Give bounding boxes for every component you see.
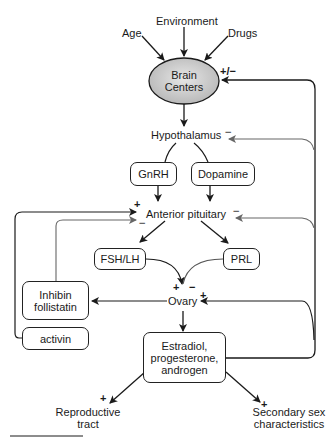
secondary-line2: characteristics (245, 418, 333, 430)
arrow-steroids-reproductive (110, 372, 145, 403)
sign-ovary-steroid: + (200, 290, 206, 301)
secondary-line1: Secondary sex (245, 406, 333, 418)
anterior-pituitary-label: Anterior pituitary (146, 208, 226, 220)
label-age: Age (122, 27, 142, 39)
sign-ovary-fsh: + (173, 282, 179, 293)
line-hypothalamus-dopamine (194, 143, 208, 162)
activin-box: activin (22, 327, 89, 350)
fsh-lh-box: FSH/LH (94, 248, 146, 270)
feedback-steroids-hypothalamus (229, 139, 314, 150)
inhibin-line1: Inhibin (39, 289, 71, 301)
hypothalamus-label: Hypothalamus (151, 129, 221, 141)
label-environment: Environment (156, 15, 218, 27)
prl-box: PRL (223, 248, 260, 270)
dopamine-box: Dopamine (191, 162, 255, 186)
gnrh-box: GnRH (130, 162, 177, 186)
line-hypothalamus-gnrh (165, 143, 176, 162)
feedback-steroids-pituitary (236, 218, 314, 228)
arrow-age (142, 36, 164, 60)
secondary-sex-label: Secondary sex characteristics (245, 406, 333, 430)
sign-ovary-prl: − (189, 282, 195, 293)
ovary-label: Ovary (168, 295, 197, 307)
sign-hypothalamus-feedback: − (225, 127, 231, 138)
feedback-steroids-brain (222, 80, 315, 358)
steroids-line1: Estradiol, (162, 340, 208, 352)
label-drugs: Drugs (228, 27, 257, 39)
sign-secondary: + (261, 399, 267, 410)
reproductive-tract-label: Reproductive tract (48, 406, 128, 430)
sign-reproductive: + (100, 393, 106, 404)
steroids-line2: progesterone, (151, 352, 219, 364)
arrow-steroids-secondary (226, 372, 260, 402)
arrow-pituitary-prl (201, 221, 228, 243)
brain-centers-line2: Centers (154, 81, 214, 93)
sign-pituitary-activin: + (134, 199, 140, 210)
sign-pituitary-inhibin: − (139, 218, 145, 229)
inhibin-follistatin-box: Inhibin follistatin (22, 281, 89, 320)
sign-brain-feedback: +/− (220, 66, 236, 77)
arrow-drugs (205, 36, 228, 60)
reproductive-line1: Reproductive (48, 406, 128, 418)
steroids-box: Estradiol, progesterone, androgen (143, 332, 226, 383)
brain-centers-label: Brain Centers (154, 69, 214, 93)
inhibin-line2: follistatin (34, 301, 77, 313)
steroids-line3: androgen (161, 364, 208, 376)
reproductive-line2: tract (48, 418, 128, 430)
brain-centers-line1: Brain (154, 69, 214, 81)
sign-pituitary-steroid: − (233, 206, 239, 217)
